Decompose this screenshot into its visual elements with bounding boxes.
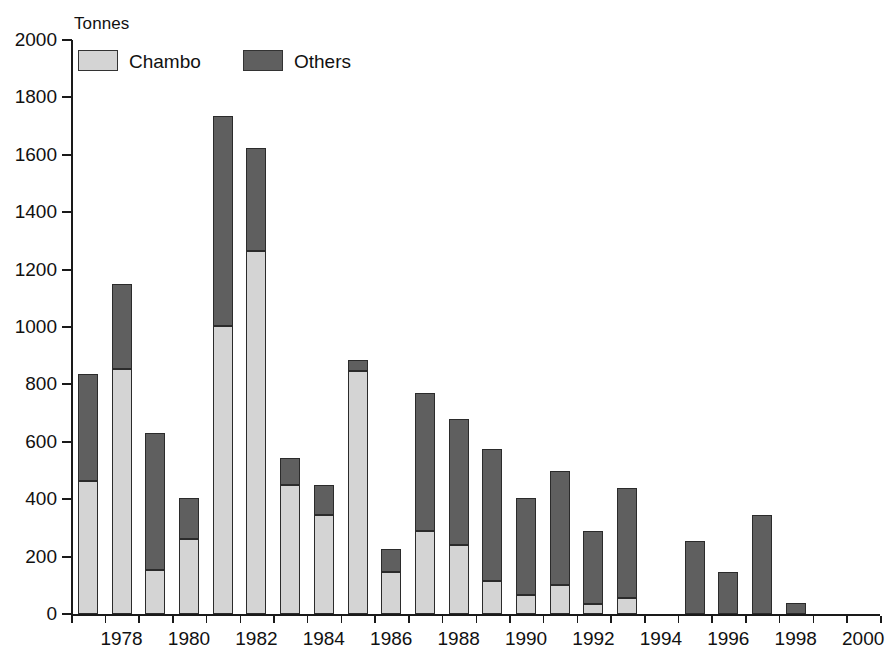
y-axis-unit-label: Tonnes: [74, 14, 129, 34]
x-tick-label: 1990: [505, 628, 547, 650]
bar-segment: [685, 541, 705, 614]
y-tick-label: 400: [25, 488, 57, 510]
y-tick-mark: [62, 441, 72, 443]
bar-segment: [718, 572, 738, 614]
bar-segment: [78, 374, 98, 480]
bar-segment: [213, 326, 233, 614]
x-tick-mark: [779, 616, 781, 623]
chart-container: Tonnes ChamboOthers 02004006008001000120…: [0, 0, 894, 659]
legend-label: Others: [294, 51, 351, 73]
x-tick-mark: [240, 616, 242, 623]
x-tick-label: 1994: [640, 628, 682, 650]
x-tick-mark: [307, 616, 309, 623]
x-tick-mark: [172, 616, 174, 623]
bar-segment: [415, 531, 435, 614]
x-tick-label: 1980: [168, 628, 210, 650]
x-tick-mark: [374, 616, 376, 623]
bar-segment: [449, 419, 469, 545]
x-tick-label: 1992: [572, 628, 614, 650]
x-tick-mark: [273, 616, 275, 623]
y-tick-mark: [62, 269, 72, 271]
y-tick-label: 800: [25, 373, 57, 395]
bar-segment: [112, 284, 132, 369]
bar-segment: [112, 369, 132, 614]
x-tick-label: 2000: [842, 628, 884, 650]
x-tick-mark: [105, 616, 107, 623]
y-tick-mark: [62, 326, 72, 328]
x-tick-mark: [813, 616, 815, 623]
bar-segment: [449, 545, 469, 614]
bar-segment: [314, 485, 334, 515]
x-tick-mark: [543, 616, 545, 623]
bar-segment: [246, 251, 266, 614]
bar-segment: [482, 449, 502, 581]
bar-segment: [752, 515, 772, 614]
x-tick-mark: [711, 616, 713, 623]
bar-segment: [280, 485, 300, 614]
y-tick-label: 1400: [15, 201, 57, 223]
x-tick-label: 1988: [438, 628, 480, 650]
y-tick-mark: [62, 96, 72, 98]
bar-segment: [381, 549, 401, 572]
y-tick-label: 0: [46, 603, 57, 625]
y-tick-label: 2000: [15, 29, 57, 51]
bar-segment: [415, 393, 435, 531]
y-tick-label: 600: [25, 431, 57, 453]
bar-segment: [482, 581, 502, 614]
x-tick-mark: [476, 616, 478, 623]
legend-swatch: [78, 50, 118, 71]
y-tick-mark: [62, 211, 72, 213]
y-tick-mark: [62, 556, 72, 558]
bar-segment: [583, 531, 603, 604]
x-tick-mark: [408, 616, 410, 623]
y-tick-mark: [62, 498, 72, 500]
bar-segment: [179, 539, 199, 614]
x-tick-label: 1986: [370, 628, 412, 650]
x-tick-label: 1982: [235, 628, 277, 650]
bar-segment: [145, 570, 165, 614]
y-tick-label: 1800: [15, 86, 57, 108]
y-tick-label: 1000: [15, 316, 57, 338]
y-tick-mark: [62, 39, 72, 41]
y-tick-mark: [62, 613, 72, 615]
x-tick-mark: [341, 616, 343, 623]
x-tick-label: 1998: [775, 628, 817, 650]
y-axis-line: [71, 40, 73, 616]
bar-segment: [246, 148, 266, 251]
y-tick-label: 200: [25, 546, 57, 568]
bar-segment: [516, 498, 536, 596]
x-tick-label: 1996: [707, 628, 749, 650]
bar-segment: [617, 488, 637, 598]
x-tick-mark: [442, 616, 444, 623]
y-tick-label: 1600: [15, 144, 57, 166]
bar-segment: [516, 595, 536, 614]
bar-segment: [348, 371, 368, 614]
y-tick-mark: [62, 383, 72, 385]
bar-segment: [179, 498, 199, 540]
legend-label: Chambo: [129, 51, 201, 73]
legend-swatch: [243, 50, 283, 71]
x-tick-mark: [577, 616, 579, 623]
bar-segment: [583, 604, 603, 614]
y-tick-mark: [62, 154, 72, 156]
x-tick-label: 1978: [100, 628, 142, 650]
x-tick-mark: [71, 616, 73, 623]
x-tick-mark: [644, 616, 646, 623]
bar-segment: [314, 515, 334, 614]
bar-segment: [213, 116, 233, 326]
bar-segment: [550, 585, 570, 614]
x-tick-mark: [206, 616, 208, 623]
bar-segment: [348, 360, 368, 371]
x-tick-mark: [509, 616, 511, 623]
bar-segment: [145, 433, 165, 569]
x-tick-mark: [138, 616, 140, 623]
x-tick-label: 1984: [303, 628, 345, 650]
x-tick-mark: [745, 616, 747, 623]
x-tick-mark: [610, 616, 612, 623]
bar-segment: [617, 598, 637, 614]
bar-segment: [280, 458, 300, 485]
x-tick-mark: [880, 616, 882, 623]
bar-segment: [786, 603, 806, 614]
bar-segment: [78, 481, 98, 614]
x-tick-mark: [846, 616, 848, 623]
